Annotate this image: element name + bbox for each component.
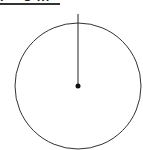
center-point [76,84,81,89]
circle-diagram [0,0,143,150]
